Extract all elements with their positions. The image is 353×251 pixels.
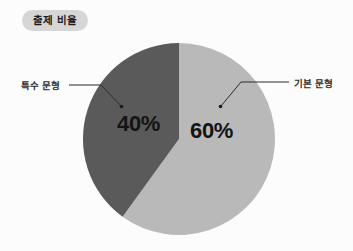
slice-value-special: 40% bbox=[117, 113, 160, 135]
callout-label-basic: 기본 문형 bbox=[294, 79, 333, 89]
leader-dot-basic bbox=[219, 105, 223, 109]
leader-dot-special bbox=[120, 105, 124, 109]
callout-label-special: 특수 문형 bbox=[21, 81, 60, 91]
slice-value-basic: 60% bbox=[190, 120, 233, 142]
pie-chart-figure: 출제 비율 특수 문형 기본 문형 40% 60% bbox=[0, 0, 353, 251]
pie-chart-graphic bbox=[0, 0, 353, 251]
